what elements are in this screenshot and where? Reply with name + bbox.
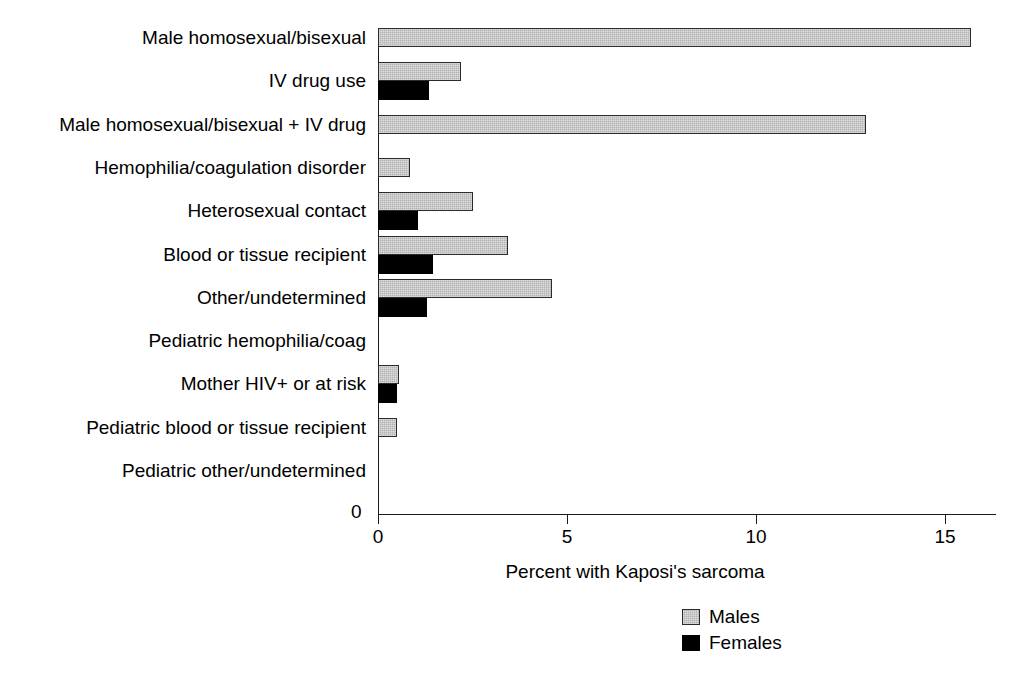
bar-males-6 (378, 279, 552, 298)
x-axis-title: Percent with Kaposi's sarcoma (0, 561, 1010, 583)
bar-males-2 (378, 115, 866, 134)
bar-females-1 (378, 81, 429, 100)
category-label-0: Male homosexual/bisexual (0, 27, 366, 49)
bar-females-5 (378, 255, 433, 274)
bar-males-4 (378, 192, 473, 211)
x-tick-15 (945, 515, 946, 524)
category-label-6: Other/undetermined (0, 287, 366, 309)
bar-males-9 (378, 418, 397, 437)
x-axis-title-text: Percent with Kaposi's sarcoma (505, 561, 764, 582)
x-tick-label-10: 10 (745, 526, 766, 548)
category-label-2: Male homosexual/bisexual + IV drug (0, 114, 366, 136)
y-axis-origin-label: 0 (351, 501, 362, 523)
bar-females-4 (378, 211, 418, 230)
bar-males-1 (378, 62, 461, 81)
x-tick-label-5: 5 (562, 526, 573, 548)
x-tick-0 (378, 515, 379, 524)
x-axis-line (378, 514, 996, 515)
bar-females-8 (378, 384, 397, 403)
x-tick-10 (756, 515, 757, 524)
legend-entry-males: Males (682, 606, 782, 628)
category-label-3: Hemophilia/coagulation disorder (0, 157, 366, 179)
category-label-5: Blood or tissue recipient (0, 244, 366, 266)
legend-label-males: Males (709, 606, 760, 628)
chart-figure: 0 051015 Male homosexual/bisexualIV drug… (0, 0, 1010, 681)
x-tick-zero-upper (378, 506, 379, 515)
legend-label-females: Females (709, 632, 782, 654)
category-label-1: IV drug use (0, 70, 366, 92)
bar-males-0 (378, 28, 971, 47)
bar-males-5 (378, 236, 508, 255)
bar-females-6 (378, 298, 427, 317)
legend-swatch-females-icon (682, 635, 700, 651)
x-tick-label-15: 15 (934, 526, 955, 548)
legend-entry-females: Females (682, 632, 782, 654)
category-label-10: Pediatric other/undetermined (0, 460, 366, 482)
x-tick-label-0: 0 (373, 526, 384, 548)
legend-swatch-males-icon (682, 609, 700, 625)
bar-males-3 (378, 158, 410, 177)
category-label-9: Pediatric blood or tissue recipient (0, 417, 366, 439)
category-label-4: Heterosexual contact (0, 200, 366, 222)
chart-legend: Males Females (682, 606, 782, 658)
category-label-7: Pediatric hemophilia/coag (0, 330, 366, 352)
x-tick-5 (567, 515, 568, 524)
category-label-8: Mother HIV+ or at risk (0, 373, 366, 395)
bar-males-8 (378, 365, 399, 384)
